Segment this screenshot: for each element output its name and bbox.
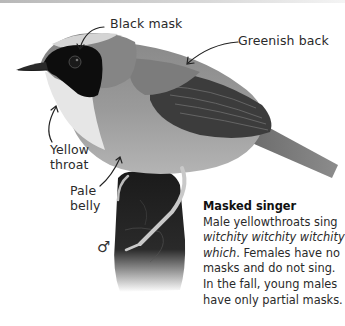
male-symbol-icon: ♂ <box>97 238 110 256</box>
caption-title: Masked singer <box>203 199 345 215</box>
callout-yellow-throat-line1: Yellow <box>50 142 89 157</box>
caption-box: Masked singer Male yellowthroats sing wi… <box>203 199 345 308</box>
caption-text-1: Male yellowthroats sing <box>203 215 338 229</box>
callout-yellow-throat: Yellow throat <box>50 142 89 172</box>
callout-pale-belly-line2: belly <box>70 198 100 213</box>
callout-yellow-throat-line2: throat <box>50 157 89 172</box>
callout-black-mask: Black mask <box>110 16 182 31</box>
greenish-back-arrow <box>188 42 238 63</box>
callout-pale-belly: Pale belly <box>70 183 100 213</box>
perch-stump <box>114 170 185 292</box>
callout-pale-belly-line1: Pale <box>70 183 96 198</box>
yellow-throat-arrow <box>49 107 56 142</box>
callout-greenish-back: Greenish back <box>238 33 329 48</box>
